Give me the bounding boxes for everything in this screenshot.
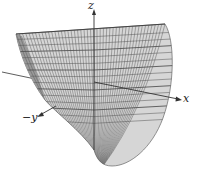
neg-y-axis-arrow <box>37 112 44 117</box>
surface-plot <box>0 0 201 173</box>
z-axis-label: z <box>88 0 94 11</box>
x-axis-arrow <box>176 97 183 102</box>
neg-y-axis-label: −y <box>22 112 37 123</box>
x-axis-label: x <box>183 93 189 104</box>
